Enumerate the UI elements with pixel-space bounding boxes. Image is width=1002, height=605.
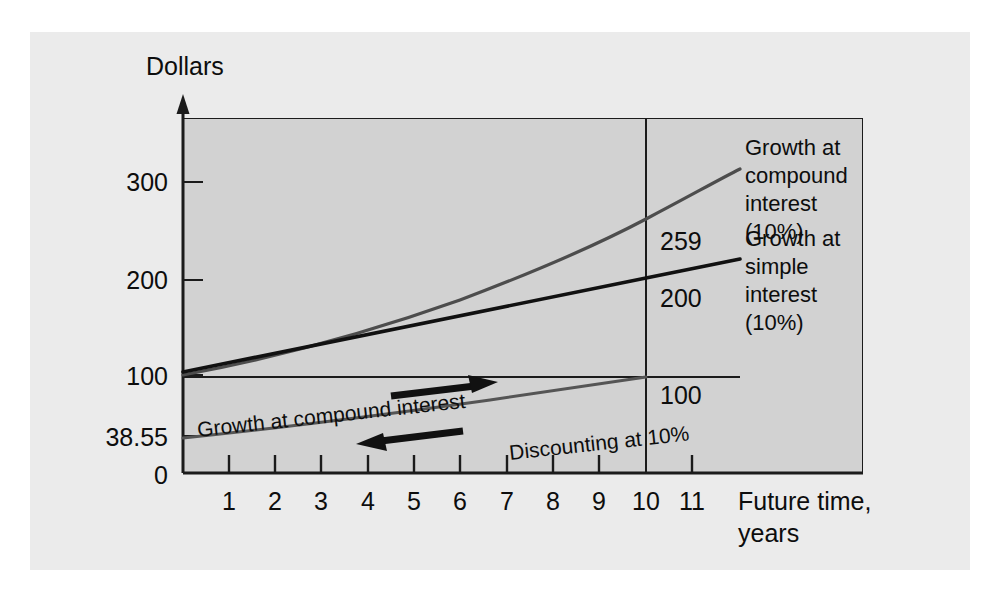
x-tick-label-1: 1 <box>209 487 249 516</box>
x-axis-title-line1: Future time, <box>738 487 871 516</box>
x-tick-label-4: 4 <box>348 487 388 516</box>
y-tick-label-38-55: 38.55 <box>68 423 168 452</box>
y-tick-label-0: 0 <box>88 461 168 490</box>
legend-simple-interest: Growth at simple interest (10%) <box>745 225 840 338</box>
y-tick-label-200: 200 <box>88 266 168 295</box>
y-tick-label-100: 100 <box>88 362 168 391</box>
x-tick-label-6: 6 <box>440 487 480 516</box>
value-label-compound-259: 259 <box>660 227 702 256</box>
figure-root: Dollars 300 200 100 38.55 0 1 2 3 4 5 6 … <box>0 0 1002 605</box>
y-axis-title: Dollars <box>146 52 224 81</box>
x-axis-title-line2: years <box>738 519 799 548</box>
x-tick-label-11: 11 <box>668 487 716 516</box>
x-tick-label-9: 9 <box>579 487 619 516</box>
x-tick-label-8: 8 <box>533 487 573 516</box>
value-label-discount-100: 100 <box>660 381 702 410</box>
x-tick-label-7: 7 <box>487 487 527 516</box>
x-tick-label-3: 3 <box>301 487 341 516</box>
x-tick-label-2: 2 <box>255 487 295 516</box>
x-tick-label-10: 10 <box>622 487 670 516</box>
value-label-simple-200: 200 <box>660 284 702 313</box>
y-tick-label-300: 300 <box>88 168 168 197</box>
x-tick-label-5: 5 <box>394 487 434 516</box>
